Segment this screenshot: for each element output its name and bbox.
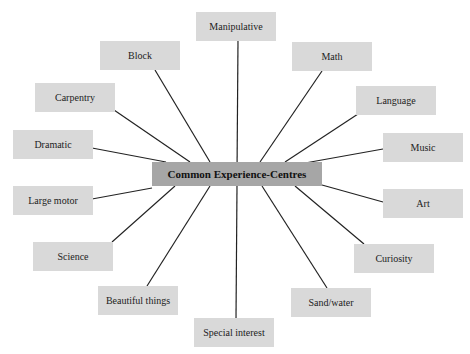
- node-label: Math: [321, 51, 342, 62]
- node-label: Beautiful things: [106, 295, 170, 306]
- node-manipulative: Manipulative: [196, 12, 276, 41]
- line-dramatic: [92, 148, 166, 162]
- node-label: Art: [416, 198, 429, 209]
- center-node: Common Experience-Centres: [152, 162, 322, 186]
- node-block: Block: [100, 41, 180, 70]
- line-block: [155, 70, 210, 162]
- node-label: Music: [411, 142, 436, 153]
- line-large-motor: [92, 188, 152, 199]
- node-label: Special interest: [203, 327, 264, 338]
- node-label: Carpentry: [55, 92, 95, 103]
- node-sand-water: Sand/water: [291, 288, 371, 317]
- node-label: Curiosity: [375, 253, 412, 264]
- node-art: Art: [383, 189, 463, 218]
- node-label: Manipulative: [209, 21, 262, 32]
- line-math: [260, 71, 322, 162]
- node-label: Language: [376, 95, 415, 106]
- line-manipulative: [237, 40, 238, 174]
- node-label: Dramatic: [34, 139, 71, 150]
- center-label: Common Experience-Centres: [168, 168, 307, 180]
- node-special-interest: Special interest: [194, 318, 274, 347]
- line-art: [322, 185, 383, 202]
- node-label: Sand/water: [309, 297, 354, 308]
- node-label: Science: [57, 251, 88, 262]
- node-label: Block: [128, 50, 152, 61]
- line-special-interest: [236, 186, 237, 318]
- line-sand-water: [262, 186, 327, 288]
- node-beautiful-things: Beautiful things: [98, 286, 178, 315]
- line-music: [305, 149, 383, 163]
- node-math: Math: [292, 42, 372, 71]
- node-language: Language: [356, 86, 436, 115]
- node-curiosity: Curiosity: [354, 244, 434, 273]
- node-large-motor: Large motor: [13, 186, 93, 215]
- line-language: [285, 114, 358, 162]
- line-beautiful-things: [147, 186, 210, 286]
- line-curiosity: [295, 186, 364, 244]
- line-science: [112, 186, 175, 242]
- node-label: Large motor: [28, 195, 78, 206]
- node-science: Science: [33, 242, 113, 271]
- node-dramatic: Dramatic: [13, 130, 93, 159]
- node-music: Music: [383, 133, 463, 162]
- node-carpentry: Carpentry: [35, 83, 115, 112]
